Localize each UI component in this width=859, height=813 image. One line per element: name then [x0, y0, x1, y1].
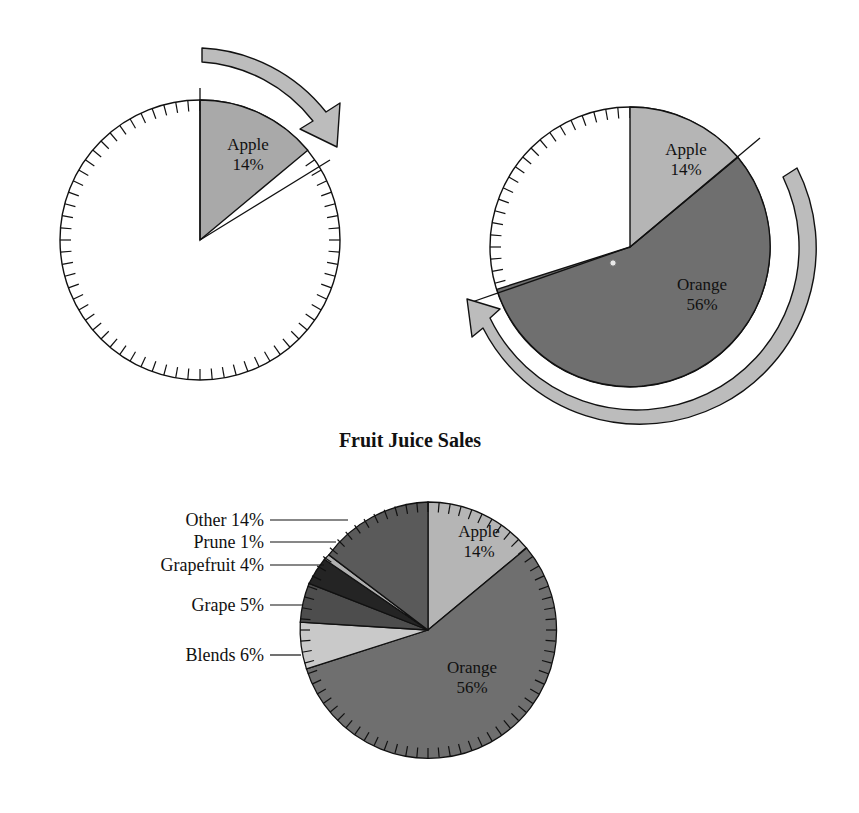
slice-label-orange-final: Orange [447, 658, 497, 677]
slice-percent-apple-step-2: 14% [670, 160, 701, 179]
callout-label-blends: Blends 6% [186, 645, 265, 665]
page-title: Fruit Juice Sales [339, 429, 481, 451]
callout-label-other: Other 14% [186, 510, 264, 530]
slice-label-apple-final: Apple [458, 522, 500, 541]
slice-percent-apple-step-1: 14% [232, 155, 263, 174]
slice-percent-orange-step-2: 56% [686, 295, 717, 314]
slice-label-apple-step-1: Apple [227, 135, 269, 154]
slice-percent-orange-final: 56% [456, 678, 487, 697]
callout-label-prune: Prune 1% [194, 532, 265, 552]
fruit-juice-sales-figure: Apple 14% Apple 14% Orange 56% Fruit Jui… [0, 0, 859, 813]
callout-label-grapefruit: Grapefruit 4% [161, 555, 264, 575]
slice-label-orange-step-2: Orange [677, 275, 727, 294]
center-pivot-marker-step-2 [610, 260, 616, 266]
slice-label-apple-step-2: Apple [665, 140, 707, 159]
slice-percent-apple-final: 14% [463, 542, 494, 561]
callout-label-grape: Grape 5% [192, 595, 264, 615]
